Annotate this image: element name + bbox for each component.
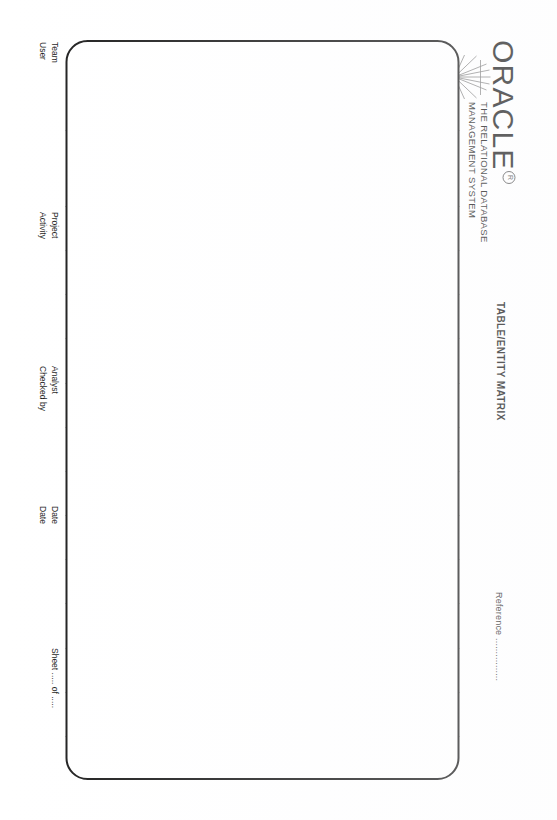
footer-date-label-2: Date: [36, 506, 48, 524]
footer-sheet-label: Sheet ..... of .....: [48, 648, 60, 708]
scanned-page: ORACLE R: [0, 0, 557, 820]
page-title: TABLE/ENTITY MATRIX: [494, 302, 505, 421]
tagline-line-1: THE RELATIONAL DATABASE: [477, 102, 489, 243]
footer-team-group: Team User: [36, 42, 59, 63]
footer-user-label: User: [36, 42, 48, 63]
form-sheet: ORACLE R: [35, 36, 521, 784]
footer-project-group: Project Activity: [36, 212, 59, 239]
footer-analyst-group: Analyst Checked by: [36, 366, 59, 411]
matrix-outer-frame: [65, 40, 459, 780]
tagline-line-2: MANAGEMENT SYSTEM: [465, 102, 477, 243]
oracle-tagline: THE RELATIONAL DATABASE MANAGEMENT SYSTE…: [465, 102, 489, 243]
footer-team-label: Team: [48, 42, 60, 63]
registered-trademark-icon: R: [502, 171, 515, 184]
footer-checked-by-label: Checked by: [36, 366, 48, 411]
footer-analyst-label: Analyst: [48, 366, 60, 411]
footer-activity-label: Activity: [36, 212, 48, 239]
reference-field: Reference ................: [493, 592, 503, 681]
footer-project-label: Project: [48, 212, 60, 239]
footer-date-group: Date Date: [36, 506, 59, 524]
form-footer: Team User Project Activity Analyst Check…: [31, 36, 59, 784]
footer-date-label-1: Date: [48, 506, 60, 524]
footer-sheet-group: Sheet ..... of .....: [48, 648, 60, 708]
